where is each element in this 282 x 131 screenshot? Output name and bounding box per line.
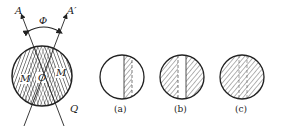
- label-q: Q: [70, 103, 78, 114]
- label-o: O: [38, 72, 46, 83]
- label-a-prime: A′: [66, 5, 77, 16]
- subfigure-a: (a): [100, 50, 144, 114]
- caption-a: (a): [114, 104, 126, 114]
- label-m-right: M: [55, 67, 67, 78]
- subfigure-b: (b): [155, 50, 211, 114]
- angle-arc: [27, 27, 60, 32]
- subfigure-c: (c): [215, 50, 270, 114]
- label-a: A: [14, 5, 22, 16]
- diagram-canvas: A A′ Φ O M M Q (a) (b): [0, 0, 282, 131]
- circle-a: [100, 55, 144, 99]
- label-m-left: M: [19, 73, 31, 84]
- label-phi: Φ: [39, 15, 47, 26]
- caption-c: (c): [235, 104, 247, 114]
- caption-b: (b): [174, 104, 187, 114]
- diagram-svg: A A′ Φ O M M Q (a) (b): [0, 0, 282, 131]
- main-polarizer-figure: A A′ Φ O M M Q: [0, 5, 90, 131]
